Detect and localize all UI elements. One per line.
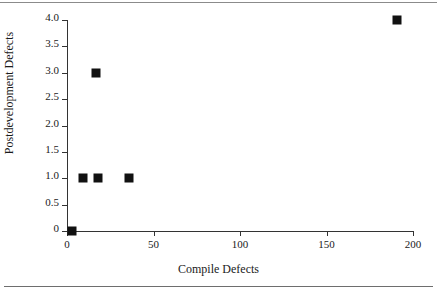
top-divider-rule xyxy=(0,2,437,3)
y-tick-mark xyxy=(62,178,67,179)
x-axis-title: Compile Defects xyxy=(0,262,437,276)
y-tick-mark xyxy=(62,99,67,100)
data-point xyxy=(393,16,402,25)
x-tick-label: 0 xyxy=(64,239,70,250)
y-tick-mark xyxy=(62,126,67,127)
y-tick-mark xyxy=(62,205,67,206)
x-tick-label: 150 xyxy=(318,239,335,250)
y-tick-label: 1.0 xyxy=(45,170,59,181)
y-tick-label: 0 xyxy=(54,223,60,234)
data-point xyxy=(125,174,134,183)
plot-area: 4.03.53.02.52.01.51.00.50 050100150200 xyxy=(67,20,413,231)
x-tick-mark xyxy=(413,231,414,236)
data-point xyxy=(94,174,103,183)
x-tick-label: 50 xyxy=(148,239,159,250)
y-tick-mark xyxy=(62,46,67,47)
x-tick-mark xyxy=(154,231,155,236)
y-tick-label: 1.5 xyxy=(45,144,59,155)
data-point xyxy=(92,68,101,77)
y-tick-mark xyxy=(62,20,67,21)
data-point xyxy=(78,174,87,183)
x-tick-label: 100 xyxy=(232,239,249,250)
x-tick-mark xyxy=(327,231,328,236)
y-tick-label: 0.5 xyxy=(45,197,59,208)
y-tick-label: 4.0 xyxy=(45,12,59,23)
y-tick-label: 3.5 xyxy=(45,38,59,49)
bottom-divider-rule xyxy=(4,286,433,287)
x-tick-mark xyxy=(240,231,241,236)
y-tick-label: 2.0 xyxy=(45,118,59,129)
data-point xyxy=(68,227,77,236)
x-tick-label: 200 xyxy=(405,239,422,250)
y-axis-line xyxy=(67,20,68,232)
scatter-plot-figure: 4.03.53.02.52.01.51.00.50 050100150200 P… xyxy=(0,0,437,301)
y-tick-mark xyxy=(62,73,67,74)
y-tick-label: 3.0 xyxy=(45,65,59,76)
y-tick-mark xyxy=(62,152,67,153)
y-tick-label: 2.5 xyxy=(45,91,59,102)
y-axis-title: Postdevelopment Defects xyxy=(2,0,16,223)
